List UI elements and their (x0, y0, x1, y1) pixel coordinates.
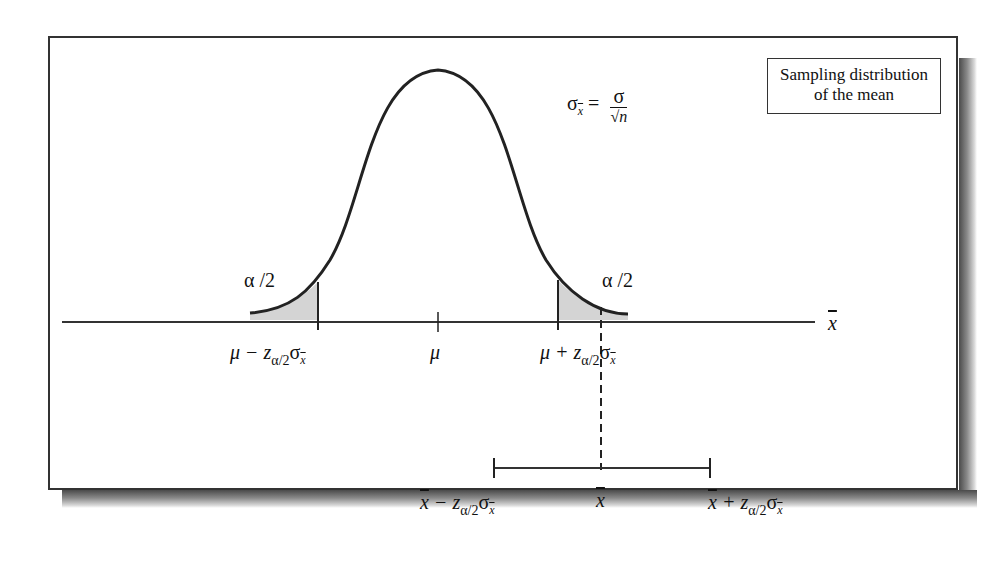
formula-fraction: σ √n (610, 86, 627, 125)
x-axis-label: x (828, 313, 837, 333)
title-line-2: of the mean (768, 85, 940, 105)
standard-error-formula: σx = σ √n (567, 86, 627, 125)
mu-label: μ (430, 342, 440, 362)
upper-critical-label: μ + zα/2σx (540, 342, 616, 362)
interval-lower-label: x − zα/2σx (420, 492, 495, 512)
title-box: Sampling distribution of the mean (767, 58, 941, 114)
sample-mean-label: x (596, 490, 605, 510)
lower-critical-label: μ − zα/2σx (230, 342, 306, 362)
title-line-1: Sampling distribution (768, 65, 940, 85)
left-tail-label: α /2 (244, 270, 275, 290)
right-tail-label: α /2 (602, 270, 633, 290)
interval-upper-label: x + zα/2σx (708, 492, 783, 512)
